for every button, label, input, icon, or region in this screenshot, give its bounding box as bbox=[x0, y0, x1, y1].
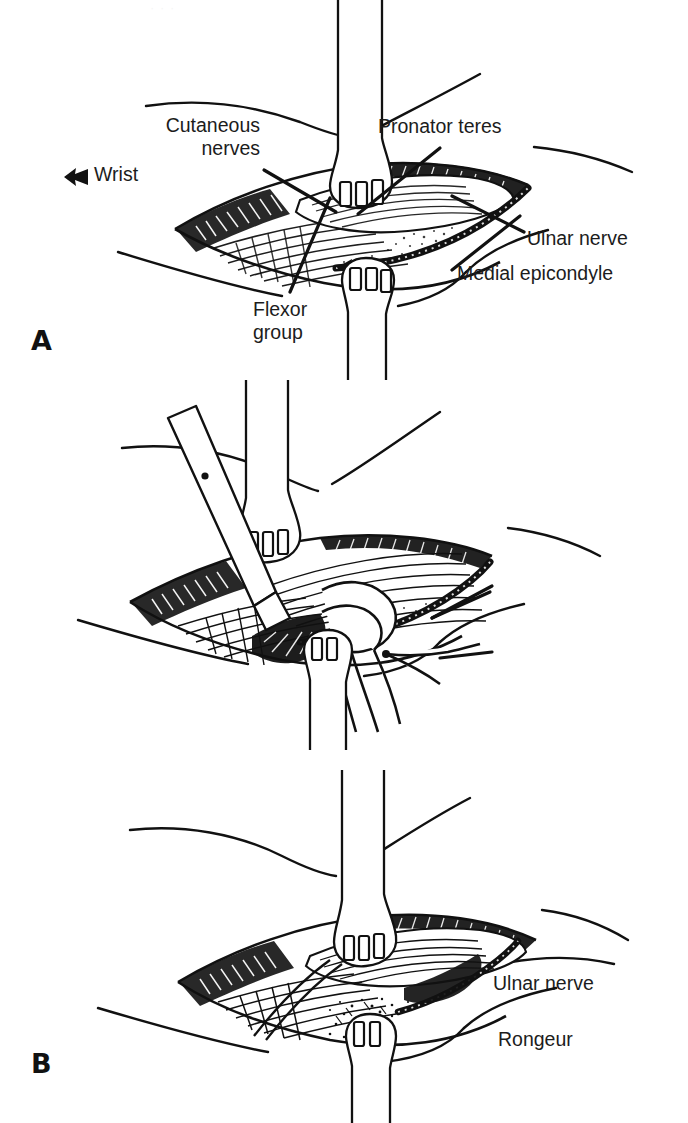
figure-panel-b: B Ulnar nerve Rongeur bbox=[0, 380, 688, 750]
left-arrow-icon bbox=[62, 164, 92, 190]
label-ulnar-nerve-a: Ulnar nerve bbox=[527, 227, 628, 250]
label-wrist: Wrist bbox=[94, 163, 138, 186]
panel-letter-a: A bbox=[31, 327, 52, 354]
figure-panel-c: C bbox=[0, 750, 688, 1123]
panel-b-illustration bbox=[0, 380, 688, 750]
label-cutaneous-nerves: Cutaneous nerves bbox=[98, 114, 260, 160]
figure-sheet: · · · bbox=[0, 0, 688, 1123]
figure-panel-a: A Cutaneous nerves Pronator teres Wrist … bbox=[0, 0, 688, 380]
panel-c-illustration bbox=[0, 750, 688, 1123]
label-flexor-group: Flexor group bbox=[253, 298, 373, 344]
label-medial-epicondyle: Medial epicondyle bbox=[457, 262, 613, 285]
label-pronator-teres: Pronator teres bbox=[378, 115, 502, 138]
